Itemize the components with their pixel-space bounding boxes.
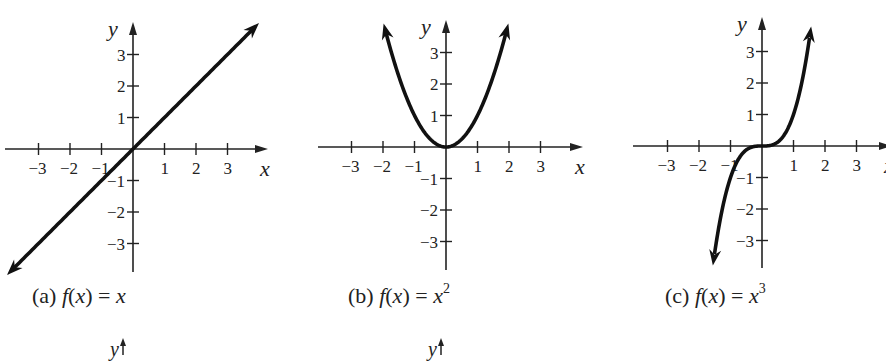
partial-next-row-axes bbox=[0, 0, 886, 355]
